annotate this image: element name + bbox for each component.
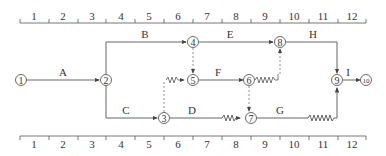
label-C: C (122, 104, 129, 116)
tick-top-9: 9 (262, 10, 268, 22)
tick-top-10: 10 (289, 10, 301, 22)
label-A: A (59, 66, 67, 78)
node-4-label: 4 (191, 37, 196, 48)
label-F: F (215, 66, 221, 78)
node-3-label: 3 (162, 113, 167, 124)
tick-top-5: 5 (146, 10, 152, 22)
tick-bottom-11: 11 (318, 138, 329, 150)
tick-bottom-12: 12 (347, 138, 358, 150)
tick-bottom-4: 4 (118, 138, 124, 150)
node-9-label: 9 (335, 75, 340, 86)
activity-H (286, 42, 337, 73)
tick-top-2: 2 (60, 10, 66, 22)
bottom-timescale: 1 2 3 4 5 6 7 8 9 10 11 12 (20, 136, 366, 150)
tick-top-6: 6 (175, 10, 181, 22)
label-B: B (141, 28, 148, 40)
tick-bottom-6: 6 (175, 138, 181, 150)
node-7-label: 7 (249, 113, 254, 124)
activity-B (106, 42, 186, 74)
tick-top-11: 11 (318, 10, 329, 22)
free-float-dummy-3-5 (166, 77, 184, 83)
tick-top-1: 1 (31, 10, 37, 22)
tick-top-8: 8 (233, 10, 239, 22)
node-6-label: 6 (247, 75, 252, 86)
tick-top-7: 7 (204, 10, 210, 22)
label-D: D (188, 104, 196, 116)
time-scaled-network-diagram: 1 2 3 4 5 6 7 8 9 10 11 12 1 2 3 4 5 6 7… (0, 0, 386, 156)
label-H: H (309, 28, 317, 40)
tick-bottom-7: 7 (204, 138, 210, 150)
node-10-label: 10 (363, 77, 371, 85)
node-5-label: 5 (191, 75, 196, 86)
label-I: I (346, 66, 350, 78)
free-float-G (308, 88, 337, 121)
free-float-D (222, 115, 240, 121)
tick-bottom-10: 10 (289, 138, 301, 150)
tick-top-4: 4 (118, 10, 124, 22)
tick-bottom-1: 1 (31, 138, 37, 150)
tick-bottom-8: 8 (233, 138, 239, 150)
activity-C (106, 86, 157, 118)
tick-bottom-5: 5 (146, 138, 152, 150)
top-timescale: 1 2 3 4 5 6 7 8 9 10 11 12 (20, 10, 366, 23)
tick-top-12: 12 (347, 10, 358, 22)
tick-top-3: 3 (89, 10, 95, 22)
node-1-label: 1 (19, 75, 24, 86)
tick-bottom-3: 3 (89, 138, 95, 150)
node-2-label: 2 (104, 75, 109, 86)
free-float-dummy-6-8 (255, 74, 278, 83)
label-E: E (227, 28, 234, 40)
label-G: G (276, 104, 284, 116)
tick-bottom-9: 9 (262, 138, 268, 150)
tick-bottom-2: 2 (60, 138, 66, 150)
node-8-label: 8 (278, 37, 283, 48)
